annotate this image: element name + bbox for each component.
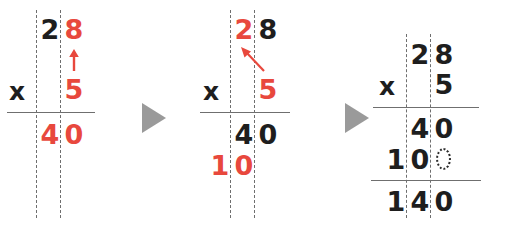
placeholder-zero-icon bbox=[436, 148, 451, 170]
multiplicand-ones-digit: 8 bbox=[257, 16, 279, 43]
multiplication-operator: x bbox=[200, 79, 222, 104]
product-rule bbox=[200, 112, 290, 113]
partial-product-tens-row-hundreds-digit: 1 bbox=[209, 152, 231, 179]
step-2-panel: 2 8 x 5 4 0 1 0 bbox=[188, 0, 328, 226]
total-hundreds-digit: 1 bbox=[385, 188, 407, 215]
product-rule bbox=[7, 112, 95, 113]
multiply-ones-arrow-icon bbox=[64, 48, 84, 76]
step-1-panel: 2 8 x 5 4 0 bbox=[0, 0, 140, 226]
partial-product-tens-row-tens-digit: 0 bbox=[233, 152, 255, 179]
multiplicand-tens-digit: 2 bbox=[39, 16, 61, 43]
total-rule bbox=[371, 180, 481, 181]
partial-product-ones-row-tens-digit: 4 bbox=[409, 115, 431, 142]
step-separator-2-icon bbox=[345, 103, 369, 133]
multiplication-operator: x bbox=[376, 74, 398, 99]
partial-product-ones-row-ones-digit: 0 bbox=[433, 115, 455, 142]
multiplicand-tens-digit: 2 bbox=[409, 41, 431, 68]
multiplier-digit: 5 bbox=[63, 76, 85, 103]
column-guide-tens bbox=[36, 10, 37, 218]
multiplication-figure: 2 8 x 5 4 0 2 8 bbox=[0, 0, 509, 226]
multiplication-operator: x bbox=[6, 79, 28, 104]
multiplicand-ones-digit: 8 bbox=[433, 41, 455, 68]
partial-product-tens-row-tens-digit: 0 bbox=[409, 146, 431, 173]
total-tens-digit: 4 bbox=[409, 188, 431, 215]
partial-product-ones-row-tens-digit: 4 bbox=[233, 121, 255, 148]
partial-product-tens-digit: 4 bbox=[39, 121, 61, 148]
step-3-panel: 2 8 x 5 4 0 1 0 1 4 0 bbox=[368, 0, 509, 226]
total-ones-digit: 0 bbox=[433, 188, 455, 215]
column-guide-tens bbox=[230, 10, 231, 218]
multiplicand-ones-digit: 8 bbox=[63, 16, 85, 43]
product-rule bbox=[373, 107, 479, 108]
multiplier-digit: 5 bbox=[257, 76, 279, 103]
step-separator-1-icon bbox=[142, 103, 166, 133]
partial-product-ones-digit: 0 bbox=[63, 121, 85, 148]
partial-product-ones-row-ones-digit: 0 bbox=[257, 121, 279, 148]
partial-product-tens-row-hundreds-digit: 1 bbox=[385, 146, 407, 173]
multiplicand-tens-digit: 2 bbox=[233, 16, 255, 43]
multiplier-digit: 5 bbox=[433, 71, 455, 98]
